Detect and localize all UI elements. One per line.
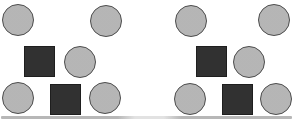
figure-canvas bbox=[0, 0, 293, 121]
right-panel bbox=[0, 0, 293, 121]
circle-shape bbox=[260, 83, 292, 115]
circle-shape bbox=[175, 5, 207, 37]
square-shape bbox=[222, 84, 253, 115]
circle-shape bbox=[258, 4, 290, 36]
circle-shape bbox=[233, 46, 265, 78]
circle-shape bbox=[174, 83, 206, 115]
square-shape bbox=[196, 46, 227, 77]
